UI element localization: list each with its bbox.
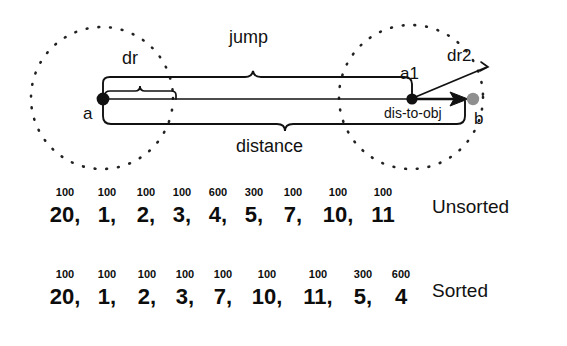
leader-line-dr2: [413, 67, 487, 98]
value-cell-unsorted-0: 20,: [44, 202, 86, 228]
label-point-b: b: [474, 110, 483, 127]
weight-cell-unsorted-2: 100: [128, 186, 164, 198]
value-cell-sorted-5: 10,: [242, 284, 292, 310]
values-row-unsorted: 20,1,2,3,4,5,7,10,11: [44, 202, 404, 228]
weight-cell-sorted-4: 100: [204, 268, 242, 280]
weights-row-sorted: 100100100100100100100300600: [44, 268, 420, 280]
value-cell-unsorted-5: 5,: [236, 202, 272, 228]
node-a1: [406, 93, 417, 104]
weight-cell-unsorted-5: 300: [236, 186, 272, 198]
sequence-table: 100100100100600300100100100 20,1,2,3,4,5…: [0, 186, 567, 346]
value-cell-sorted-1: 1,: [86, 284, 128, 310]
weight-cell-sorted-6: 100: [292, 268, 344, 280]
value-cell-unsorted-2: 2,: [128, 202, 164, 228]
weight-cell-sorted-3: 100: [166, 268, 204, 280]
weights-row-unsorted: 100100100100600300100100100: [44, 186, 404, 198]
label-dis-to-obj: dis-to-obj: [384, 106, 442, 120]
label-dr: dr: [122, 49, 138, 67]
weight-cell-unsorted-3: 100: [164, 186, 200, 198]
label-point-a1: a1: [400, 65, 419, 82]
value-cell-unsorted-7: 10,: [314, 202, 362, 228]
weight-cell-sorted-0: 100: [44, 268, 86, 280]
node-b: [467, 93, 479, 105]
weight-cell-unsorted-4: 600: [200, 186, 236, 198]
weight-cell-sorted-1: 100: [86, 268, 128, 280]
value-cell-sorted-0: 20,: [44, 284, 86, 310]
value-cell-unsorted-3: 3,: [164, 202, 200, 228]
value-cell-sorted-2: 2,: [128, 284, 166, 310]
node-a: [97, 93, 110, 106]
value-cell-unsorted-6: 7,: [272, 202, 314, 228]
weight-cell-sorted-7: 300: [344, 268, 382, 280]
weight-cell-unsorted-8: 100: [362, 186, 404, 198]
value-cell-unsorted-1: 1,: [86, 202, 128, 228]
row-label-unsorted: Unsorted: [432, 196, 509, 218]
weight-cell-unsorted-1: 100: [86, 186, 128, 198]
value-cell-sorted-4: 7,: [204, 284, 242, 310]
leader-line-dr2-tick: [480, 62, 488, 71]
label-jump: jump: [229, 28, 268, 46]
figure-root: jump dr a a1 dr2 dis-to-obj b distance 1…: [0, 0, 567, 346]
label-dr2: dr2: [447, 47, 472, 64]
row-label-sorted: Sorted: [432, 280, 488, 302]
value-cell-unsorted-8: 11: [362, 202, 404, 228]
value-cell-sorted-7: 5,: [344, 284, 382, 310]
weight-cell-sorted-2: 100: [128, 268, 166, 280]
label-distance: distance: [236, 137, 303, 155]
weight-cell-unsorted-7: 100: [314, 186, 362, 198]
value-cell-sorted-3: 3,: [166, 284, 204, 310]
weight-cell-unsorted-6: 100: [272, 186, 314, 198]
value-cell-unsorted-4: 4,: [200, 202, 236, 228]
label-point-a: a: [83, 105, 92, 122]
values-row-sorted: 20,1,2,3,7,10,11,5,4: [44, 284, 420, 310]
weight-cell-sorted-5: 100: [242, 268, 292, 280]
value-cell-sorted-8: 4: [382, 284, 420, 310]
weight-cell-unsorted-0: 100: [44, 186, 86, 198]
weight-cell-sorted-8: 600: [382, 268, 420, 280]
brace-dr: [105, 86, 176, 99]
jump-distance-schematic: [0, 0, 567, 186]
value-cell-sorted-6: 11,: [292, 284, 344, 310]
brace-jump: [103, 71, 412, 99]
